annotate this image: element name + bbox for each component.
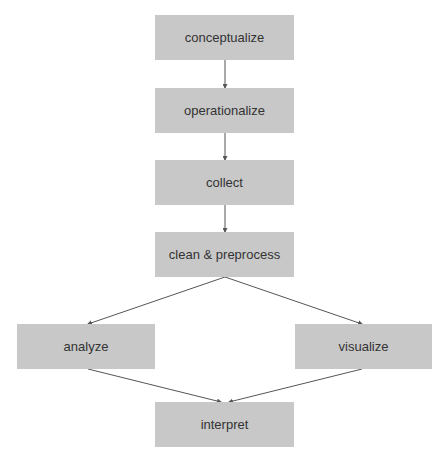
node-analyze: analyze [17,324,155,369]
node-operationalize: operationalize [155,88,294,133]
node-conceptualize: conceptualize [155,15,294,60]
edge-analyze-interpret [88,369,221,402]
edge-clean-analyze [88,277,225,324]
node-clean-preprocess: clean & preprocess [155,232,294,277]
node-collect: collect [155,160,294,205]
edges-layer [0,0,446,461]
node-interpret: interpret [155,402,294,447]
edge-visualize-interpret [229,369,362,402]
node-visualize: visualize [295,324,432,369]
edge-clean-visualize [225,277,362,324]
